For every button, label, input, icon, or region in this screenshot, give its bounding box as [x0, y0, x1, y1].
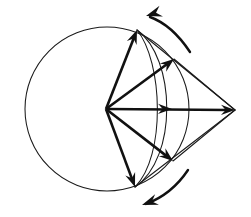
- figure-container: [0, 0, 251, 217]
- rotation-arrow-top-head: [146, 6, 163, 17]
- rotation-arrow-top: [150, 17, 190, 52]
- edge-upper-mid-to-right: [174, 59, 235, 110]
- edge-lower-mid-to-right: [173, 110, 235, 161]
- vector-diagram: [0, 0, 251, 217]
